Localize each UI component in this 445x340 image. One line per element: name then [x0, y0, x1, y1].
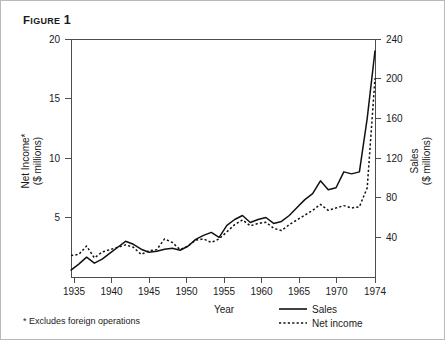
- right-tick-label-160: 160: [386, 113, 403, 124]
- right-tick-label-200: 200: [386, 73, 403, 84]
- footnote: * Excludes foreign operations: [23, 316, 141, 326]
- right-tick-label-80: 80: [386, 192, 398, 203]
- right-tick-label-240: 240: [386, 34, 403, 45]
- x-tick-label-1960: 1960: [250, 286, 273, 297]
- x-axis-ticks: 1935 1940 1945 1950 1955 1960 1965 1970 …: [63, 277, 387, 297]
- right-axis-title-line1: Sales: [409, 148, 420, 173]
- right-tick-label-40: 40: [386, 232, 398, 243]
- left-tick-label-5: 5: [54, 212, 60, 223]
- chart-series: [71, 51, 375, 270]
- line-chart: 20 15 10 5 240 200 160 120 80: [1, 1, 445, 340]
- chart-canvas: 20 15 10 5 240 200 160 120 80: [1, 1, 445, 340]
- x-tick-label-1945: 1945: [138, 286, 161, 297]
- left-axis-ticks: 20 15 10 5: [49, 34, 71, 224]
- x-tick-label-1970: 1970: [325, 286, 348, 297]
- series-line-sales: [71, 51, 375, 270]
- x-tick-label-1935: 1935: [63, 286, 86, 297]
- right-tick-label-120: 120: [386, 153, 403, 164]
- legend-label-sales: Sales: [312, 304, 337, 315]
- x-tick-label-1955: 1955: [213, 286, 236, 297]
- left-axis-title-line2: ($ millions): [32, 137, 43, 185]
- x-tick-label-1965: 1965: [288, 286, 311, 297]
- right-axis-ticks: 240 200 160 120 80 40: [375, 34, 403, 243]
- x-tick-label-1974: 1974: [364, 286, 387, 297]
- x-tick-label-1940: 1940: [100, 286, 123, 297]
- chart-axes: [71, 39, 375, 277]
- left-tick-label-20: 20: [49, 34, 61, 45]
- legend-label-net-income: Net income: [312, 318, 363, 329]
- chart-legend: Sales Net income: [279, 304, 363, 329]
- x-tick-label-1950: 1950: [175, 286, 198, 297]
- left-tick-label-15: 15: [49, 93, 61, 104]
- right-axis-title-line2: ($ millions): [421, 137, 432, 185]
- left-axis-title-line1: Net Income*: [20, 133, 31, 188]
- x-axis-title: Year: [214, 304, 235, 315]
- figure-container: FIGURE 1 20 15 10 5: [0, 0, 445, 340]
- left-tick-label-10: 10: [49, 153, 61, 164]
